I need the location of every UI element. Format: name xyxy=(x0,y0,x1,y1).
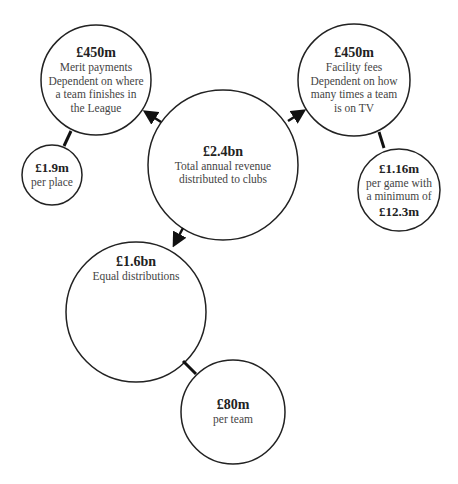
facility-sub-node: £1.16m per game with a minimum of £12.3m xyxy=(358,149,440,231)
facility-amount: £450m xyxy=(334,45,374,61)
facility-line: Facility fees xyxy=(326,61,383,75)
equal-sub-node: £80m per team xyxy=(181,360,285,464)
facility-line: is on TV xyxy=(334,102,374,116)
merit-sub-line: per place xyxy=(31,176,73,190)
merit-line: Merit payments xyxy=(60,61,133,75)
merit-amount: £450m xyxy=(76,45,116,61)
equal-sub-amount: £80m xyxy=(217,397,250,413)
central-amount: £2.4bn xyxy=(203,144,243,160)
central-node: £2.4bn Total annual revenue distributed … xyxy=(148,90,298,240)
facility-sub-amount: £1.16m xyxy=(379,161,419,177)
equal-node: £1.6bn Equal distributions xyxy=(66,242,206,342)
facility-sub-line: per game with xyxy=(366,177,432,191)
merit-node: £450m Merit payments Dependent on where … xyxy=(41,25,151,135)
facility-line: many times a team xyxy=(311,88,398,102)
facility-line: Dependent on how xyxy=(311,75,398,89)
facility-sub-line: a minimum of xyxy=(366,190,431,204)
merit-sub-node: £1.9m per place xyxy=(22,145,82,205)
equal-sub-line: per team xyxy=(213,413,253,427)
equal-line: Equal distributions xyxy=(92,270,179,284)
merit-line: Dependent on where xyxy=(48,75,143,89)
facility-sub-amount-min: £12.3m xyxy=(379,204,419,220)
equal-amount: £1.6bn xyxy=(116,254,156,270)
central-line: Total annual revenue xyxy=(175,160,271,174)
merit-line: a team finishes in xyxy=(56,88,137,102)
central-line: distributed to clubs xyxy=(179,173,267,187)
merit-sub-amount: £1.9m xyxy=(35,160,69,176)
merit-line: the League xyxy=(71,102,122,116)
facility-node: £450m Facility fees Dependent on how man… xyxy=(298,24,410,136)
